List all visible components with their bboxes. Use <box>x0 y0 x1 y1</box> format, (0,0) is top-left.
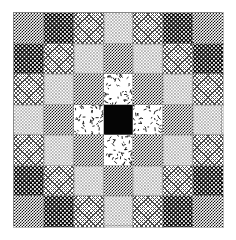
grid-cell-r1-c6 <box>163 13 193 44</box>
grid-cell-r1-c1 <box>14 13 44 44</box>
grid-cell-r7-c2 <box>44 196 74 227</box>
grid-cell-r5-c4 <box>104 135 134 166</box>
grid-cell-r7-c5 <box>133 196 163 227</box>
grid-cell-r3-c5 <box>133 74 163 105</box>
figure-canvas <box>0 0 236 240</box>
grid-cell-r1-c4 <box>104 13 134 44</box>
grid-cell-r5-c1 <box>14 135 44 166</box>
grid-cell-r7-c1 <box>14 196 44 227</box>
grid-cell-r3-c6 <box>163 74 193 105</box>
grid-cell-r4-c4 <box>104 105 134 136</box>
grid-cell-r6-c2 <box>44 166 74 197</box>
grid-cell-r2-c5 <box>133 44 163 75</box>
grid-cell-r4-c7 <box>193 105 223 136</box>
grid-cell-r6-c4 <box>104 166 134 197</box>
grid-cell-r5-c2 <box>44 135 74 166</box>
grid-cell-r4-c3 <box>74 105 104 136</box>
grid-cell-r4-c1 <box>14 105 44 136</box>
grid-cell-r1-c7 <box>193 13 223 44</box>
grid-cell-r1-c3 <box>74 13 104 44</box>
grid-cell-r5-c6 <box>163 135 193 166</box>
grid-cell-r2-c7 <box>193 44 223 75</box>
grid-cell-r7-c6 <box>163 196 193 227</box>
grid-cell-r6-c5 <box>133 166 163 197</box>
grid-cell-r7-c3 <box>74 196 104 227</box>
grid-cell-r7-c4 <box>104 196 134 227</box>
grid-cell-r6-c7 <box>193 166 223 197</box>
grid-cell-r5-c3 <box>74 135 104 166</box>
grid-cell-r2-c6 <box>163 44 193 75</box>
grid-cell-r6-c6 <box>163 166 193 197</box>
grid-cell-r6-c3 <box>74 166 104 197</box>
grid-cell-r2-c4 <box>104 44 134 75</box>
grid-cell-r5-c5 <box>133 135 163 166</box>
grid-cell-r1-c5 <box>133 13 163 44</box>
grid-cell-r4-c6 <box>163 105 193 136</box>
grid-cell-r6-c1 <box>14 166 44 197</box>
grid-cell-r2-c1 <box>14 44 44 75</box>
texture-grid <box>14 13 223 227</box>
grid-cell-r3-c1 <box>14 74 44 105</box>
grid-cell-r7-c7 <box>193 196 223 227</box>
grid-cell-r2-c3 <box>74 44 104 75</box>
grid-cell-r1-c2 <box>44 13 74 44</box>
grid-cell-r3-c7 <box>193 74 223 105</box>
grid-cell-r3-c4 <box>104 74 134 105</box>
grid-cell-r2-c2 <box>44 44 74 75</box>
grid-cell-r3-c3 <box>74 74 104 105</box>
grid-cell-r4-c2 <box>44 105 74 136</box>
grid-cell-r4-c5 <box>133 105 163 136</box>
grid-cell-r5-c7 <box>193 135 223 166</box>
grid-cell-r3-c2 <box>44 74 74 105</box>
grid-frame <box>13 12 222 226</box>
